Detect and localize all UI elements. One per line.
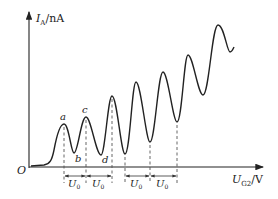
point-label-a: a: [60, 111, 66, 122]
svg-text:U0: U0: [68, 178, 80, 190]
svg-text:U0: U0: [92, 178, 104, 190]
franck-hertz-diagram: IA/nA UG2/V O U0 U0 U0 U0 a b c d: [0, 0, 278, 199]
origin-label: O: [17, 164, 26, 177]
x-axis-label: UG2/V: [232, 173, 264, 188]
svg-text:U0: U0: [130, 178, 142, 190]
point-label-b: b: [75, 153, 81, 164]
interval-labels: U0 U0 U0 U0: [68, 178, 168, 190]
point-label-c: c: [82, 104, 88, 115]
anode-current-curve: [31, 25, 234, 166]
dashed-guides: [64, 99, 177, 183]
y-axis-label: IA/nA: [35, 12, 65, 27]
svg-text:U0: U0: [156, 178, 168, 190]
point-label-d: d: [102, 154, 108, 165]
